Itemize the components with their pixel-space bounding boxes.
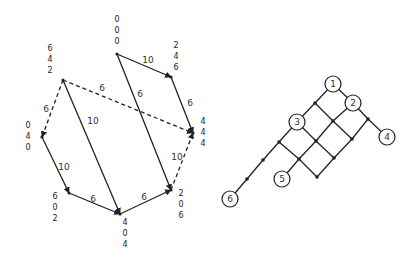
node-label: 2: [178, 189, 183, 198]
edge-weight: 10: [87, 116, 99, 126]
node-number: 5: [279, 174, 285, 184]
link: [316, 141, 334, 158]
node-dot: [191, 131, 194, 134]
node-label: 4: [122, 218, 127, 227]
node-label: 6: [173, 63, 178, 72]
junction-dot: [297, 157, 301, 161]
link: [316, 121, 333, 141]
node-dot: [118, 212, 121, 215]
node-label: 6: [47, 44, 52, 53]
edge-weight: 6: [90, 194, 96, 204]
node-dot: [61, 78, 64, 81]
junction-dot: [331, 119, 335, 123]
link: [333, 121, 352, 139]
link: [263, 142, 279, 160]
junction-dot: [366, 117, 370, 121]
link: [279, 142, 299, 159]
node-label: 6: [52, 192, 57, 201]
node-dot: [115, 52, 118, 55]
diagram-canvas: 1066661010661000024664244404060240420612…: [0, 0, 414, 268]
node-number: 6: [227, 194, 233, 204]
node-label: 0: [114, 37, 119, 46]
junction-dot: [277, 140, 281, 144]
node-label: 0: [25, 143, 30, 152]
edge-weight: 6: [43, 104, 49, 114]
link: [317, 158, 334, 177]
link: [299, 141, 316, 159]
node-label: 4: [122, 240, 127, 249]
node-label: 2: [47, 66, 52, 75]
junction-dot: [313, 101, 317, 105]
junction-dot: [332, 156, 336, 160]
node-label: 4: [200, 117, 205, 126]
link: [299, 159, 317, 177]
node-label: 4: [47, 55, 52, 64]
edge-weight: 6: [137, 89, 143, 99]
edge-weight: 6: [187, 98, 193, 108]
node-dot: [169, 188, 172, 191]
edge-weight: 6: [99, 83, 105, 93]
node-dot: [169, 75, 172, 78]
edge: [117, 54, 171, 190]
link: [334, 139, 352, 158]
node-dot: [40, 135, 43, 138]
junction-dot: [261, 158, 265, 162]
node-label: 2: [52, 214, 57, 223]
junction-dot: [350, 137, 354, 141]
node-number: 1: [330, 79, 336, 89]
node-label: 4: [173, 52, 178, 61]
junction-dot: [314, 139, 318, 143]
link: [247, 160, 263, 179]
node-label: 4: [200, 128, 205, 137]
node-label: 6: [178, 211, 183, 220]
node-number: 4: [384, 132, 390, 142]
node-number: 2: [350, 98, 356, 108]
node-label: 0: [178, 200, 183, 209]
edge-weight: 10: [171, 152, 183, 162]
node-number: 3: [294, 117, 300, 127]
link: [315, 103, 333, 121]
node-label: 4: [25, 132, 30, 141]
link: [352, 119, 368, 139]
node-label: 0: [52, 203, 57, 212]
node-label: 0: [114, 15, 119, 24]
junction-dot: [245, 177, 249, 181]
junction-dot: [315, 175, 319, 179]
edge-weight: 6: [141, 192, 147, 202]
right-graph: 123456: [222, 76, 395, 207]
node-label: 4: [200, 139, 205, 148]
left-graph: 10666610106610000246642444040602404206: [25, 15, 205, 249]
node-label: 0: [122, 229, 127, 238]
node-label: 2: [173, 41, 178, 50]
edge-weight: 10: [142, 55, 154, 65]
node-dot: [67, 191, 70, 194]
node-label: 0: [25, 121, 30, 130]
node-label: 0: [114, 26, 119, 35]
edge-weight: 10: [58, 162, 70, 172]
